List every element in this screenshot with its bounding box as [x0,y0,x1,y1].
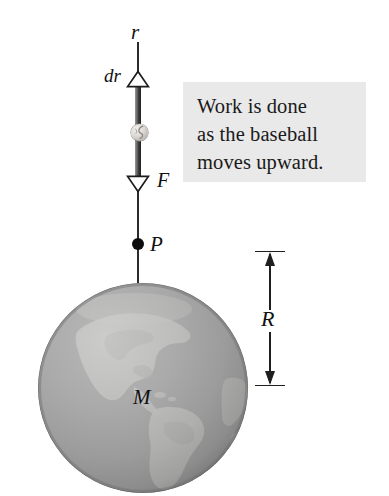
baseball [131,124,148,141]
label-F-glyph: F [157,169,169,191]
caption-line-2: as the baseball [197,121,354,149]
label-P: P [150,234,163,255]
label-F-text: F [157,170,169,190]
label-dr-text: dr [104,66,121,85]
dr-arrowhead-up-icon [126,70,150,88]
label-R: R [261,308,274,330]
label-dr: dr [104,66,121,85]
caption-box: Work is done as the baseball moves upwar… [183,82,366,182]
F-arrowhead-down-icon [126,175,150,193]
R-dimension-tick-top [255,251,285,253]
caption-line-1: Work is done [197,93,354,121]
R-dimension-tick-bottom [255,385,285,387]
label-F: F [157,170,169,190]
label-r: r [131,22,139,43]
R-dimension-arrowhead-up-icon [264,252,276,266]
label-dr-glyph: dr [104,65,121,86]
baseball-seam-icon [131,124,148,141]
caption-line-3: moves upward. [197,149,354,177]
physics-diagram-figure: r dr F [0,0,389,496]
R-dimension-arrowhead-down-icon [264,371,276,385]
point-P-marker [132,238,144,250]
label-M: M [133,387,151,408]
